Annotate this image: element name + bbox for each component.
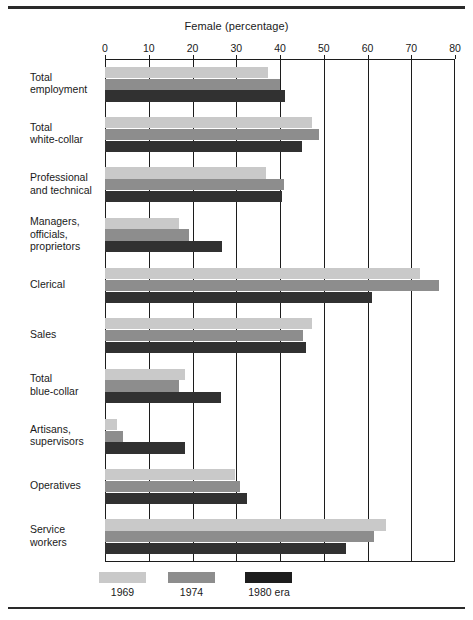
category-label: Managers,officials,proprietors (30, 215, 102, 253)
bar (105, 167, 266, 178)
bottom-divider-rule (8, 607, 465, 609)
bar (105, 431, 123, 442)
x-tick-label: 20 (187, 42, 199, 54)
x-tick-label: 40 (274, 42, 286, 54)
bar (105, 191, 282, 202)
x-tick-label: 60 (362, 42, 374, 54)
category-label: Sales (30, 328, 102, 341)
legend-label: 1980 era (239, 586, 299, 598)
bar (105, 519, 386, 530)
bar (105, 543, 346, 554)
category-label-line: Clerical (30, 278, 102, 291)
category-label: Totalblue-collar (30, 372, 102, 397)
bar (105, 531, 374, 542)
x-tick-mark (455, 55, 456, 59)
bar (105, 90, 285, 101)
x-tick-label: 10 (143, 42, 155, 54)
category-label-line: blue-collar (30, 385, 102, 398)
chart-axis-title: Female (percentage) (0, 20, 473, 32)
category-label-line: workers (30, 536, 102, 549)
gridline (368, 59, 369, 562)
bar (105, 442, 185, 453)
bar (105, 380, 179, 391)
bar (105, 292, 372, 303)
category-label-line: officials, (30, 228, 102, 241)
legend-item[interactable]: 1974 (168, 572, 215, 598)
x-tick-label: 0 (102, 42, 108, 54)
category-label: Operatives (30, 479, 102, 492)
category-label: Artisans,supervisors (30, 423, 102, 448)
bar (105, 241, 222, 252)
bar (105, 129, 319, 140)
category-label: Professionaland technical (30, 171, 102, 196)
bar (105, 342, 306, 353)
category-label-line: employment (30, 83, 102, 96)
x-tick-label: 50 (318, 42, 330, 54)
plot-area (105, 59, 455, 562)
category-label-line: Sales (30, 328, 102, 341)
x-tick-label: 30 (230, 42, 242, 54)
category-label: Totalwhite-collar (30, 121, 102, 146)
bar (105, 218, 179, 229)
category-label-line: proprietors (30, 240, 102, 253)
category-label-line: Total (30, 121, 102, 134)
x-tick-label: 70 (405, 42, 417, 54)
bar (105, 419, 117, 430)
legend-swatch (245, 572, 292, 583)
bar (105, 330, 303, 341)
legend-item[interactable]: 1969 (99, 572, 146, 598)
category-label-line: and technical (30, 184, 102, 197)
bar (105, 280, 439, 291)
chart-legend: 196919741980 era (0, 572, 473, 604)
category-label-line: white-collar (30, 133, 102, 146)
bar (105, 268, 420, 279)
bar (105, 481, 240, 492)
category-label: Totalemployment (30, 71, 102, 96)
bar (105, 369, 185, 380)
category-label-line: Professional (30, 171, 102, 184)
gridline (324, 59, 325, 562)
legend-swatch (99, 572, 146, 583)
legend-label: 1969 (99, 586, 146, 598)
bar (105, 117, 312, 128)
top-divider-rule (8, 6, 465, 9)
gridline (411, 59, 412, 562)
bar (105, 229, 189, 240)
bar (105, 392, 221, 403)
category-label-line: Managers, (30, 215, 102, 228)
category-label: Clerical (30, 278, 102, 291)
category-label-line: Operatives (30, 479, 102, 492)
category-label-line: Total (30, 372, 102, 385)
category-label: Serviceworkers (30, 523, 102, 548)
category-label-line: Service (30, 523, 102, 536)
category-label-line: supervisors (30, 435, 102, 448)
bar (105, 67, 268, 78)
bar (105, 493, 247, 504)
legend-item[interactable]: 1980 era (245, 572, 299, 598)
bar (105, 469, 235, 480)
bar (105, 141, 302, 152)
chart-figure: Female (percentage) 01020304050607080 To… (0, 0, 473, 620)
legend-swatch (168, 572, 215, 583)
category-label-line: Total (30, 71, 102, 84)
legend-label: 1974 (168, 586, 215, 598)
x-tick-label: 80 (449, 42, 461, 54)
bar (105, 179, 284, 190)
bar (105, 79, 280, 90)
category-label-line: Artisans, (30, 423, 102, 436)
bar (105, 318, 312, 329)
